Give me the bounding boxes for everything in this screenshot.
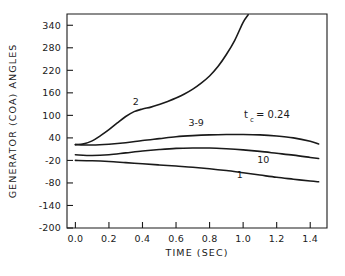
y-tick-label: -80 — [45, 177, 61, 188]
x-tick-label: 1.4 — [302, 233, 318, 244]
annotation-clearing-time-subscript: c — [250, 116, 254, 124]
curve-label-1: 1 — [237, 169, 243, 180]
y-tick-label: 100 — [42, 110, 61, 121]
curve-label-2: 2 — [133, 96, 139, 107]
curve-3-9 — [75, 134, 318, 145]
y-tick-label: 340 — [42, 20, 61, 31]
y-tick-label: -140 — [39, 200, 61, 211]
y-axis-tick-marks — [67, 25, 73, 228]
x-tick-label: 0.0 — [68, 233, 84, 244]
generator-angles-line-chart: 34028022016010040-20-80-140-200 0.00.20.… — [0, 0, 345, 276]
y-axis-tick-labels: 34028022016010040-20-80-140-200 — [39, 20, 61, 234]
y-tick-label: 220 — [42, 65, 61, 76]
y-axis-title: GENERATOR (COA) ANGLES — [7, 44, 18, 199]
x-tick-label: 1.0 — [235, 233, 251, 244]
x-axis-tick-labels: 0.00.20.40.60.81.01.21.4 — [68, 233, 319, 244]
annotation-clearing-time-value: = 0.24 — [256, 109, 290, 120]
x-tick-label: 0.4 — [135, 233, 151, 244]
x-axis-title: TIME (SEC) — [165, 247, 229, 258]
x-tick-label: 0.2 — [101, 233, 117, 244]
x-axis-tick-marks — [75, 222, 310, 228]
y-tick-label: 280 — [42, 42, 61, 53]
curve-label-3-9: 3-9 — [188, 117, 204, 128]
x-tick-label: 1.2 — [269, 233, 285, 244]
data-curves — [75, 15, 318, 182]
curve-2 — [75, 15, 248, 145]
x-tick-label: 0.6 — [168, 233, 184, 244]
y-tick-label: 160 — [42, 87, 61, 98]
x-tick-label: 0.8 — [202, 233, 218, 244]
y-tick-label: -200 — [39, 222, 61, 233]
chart-figure: 34028022016010040-20-80-140-200 0.00.20.… — [0, 0, 345, 276]
curve-label-10: 10 — [257, 154, 269, 165]
curve-10 — [75, 148, 318, 159]
y-tick-label: -20 — [45, 155, 61, 166]
annotation-clearing-time: t — [244, 109, 248, 120]
y-tick-label: 40 — [49, 132, 62, 143]
curve-1 — [75, 160, 318, 181]
